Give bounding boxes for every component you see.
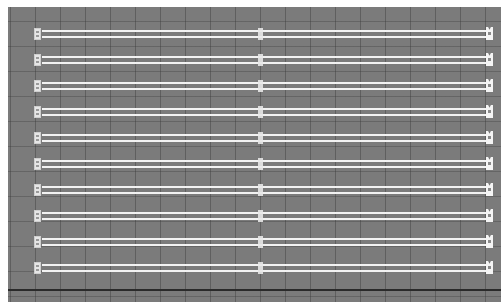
rail-top-line	[42, 134, 487, 136]
middle-connector-icon	[258, 54, 263, 66]
rail-bottom-line	[42, 166, 487, 168]
middle-connector-icon	[258, 132, 263, 144]
right-connector-icon	[486, 183, 493, 196]
left-connector-icon	[34, 236, 41, 248]
rail-top-line	[42, 160, 487, 162]
right-connector-icon	[486, 79, 493, 92]
rail-row	[8, 133, 501, 143]
right-connector-icon	[486, 105, 493, 118]
middle-connector-icon	[258, 236, 263, 248]
rail-row	[8, 185, 501, 195]
rail-top-line	[42, 212, 487, 214]
rail-row	[8, 237, 501, 247]
grid-canvas	[8, 7, 501, 302]
left-connector-icon	[34, 106, 41, 118]
rail-row	[8, 81, 501, 91]
left-connector-icon	[34, 80, 41, 92]
left-connector-icon	[34, 28, 41, 40]
rail-bottom-line	[42, 270, 487, 272]
rail-bottom-line	[42, 36, 487, 38]
right-connector-icon	[486, 53, 493, 66]
baseline-line	[8, 289, 501, 291]
rail-row	[8, 159, 501, 169]
rail-top-line	[42, 186, 487, 188]
left-connector-icon	[34, 132, 41, 144]
rail-row	[8, 29, 501, 39]
rail-top-line	[42, 82, 487, 84]
rail-bottom-line	[42, 218, 487, 220]
left-connector-icon	[34, 262, 41, 274]
middle-connector-icon	[258, 262, 263, 274]
left-connector-icon	[34, 184, 41, 196]
middle-connector-icon	[258, 80, 263, 92]
right-connector-icon	[486, 235, 493, 248]
rail-row	[8, 107, 501, 117]
rail-top-line	[42, 238, 487, 240]
right-connector-icon	[486, 261, 493, 274]
rail-row	[8, 263, 501, 273]
middle-connector-icon	[258, 210, 263, 222]
rail-bottom-line	[42, 140, 487, 142]
rail-bottom-line	[42, 62, 487, 64]
rail-bottom-line	[42, 114, 487, 116]
right-connector-icon	[486, 157, 493, 170]
right-connector-icon	[486, 27, 493, 40]
middle-connector-icon	[258, 28, 263, 40]
rail-row	[8, 55, 501, 65]
right-connector-icon	[486, 209, 493, 222]
middle-connector-icon	[258, 184, 263, 196]
rail-top-line	[42, 108, 487, 110]
right-connector-icon	[486, 131, 493, 144]
rail-top-line	[42, 30, 487, 32]
middle-connector-icon	[258, 106, 263, 118]
rail-top-line	[42, 56, 487, 58]
rail-bottom-line	[42, 192, 487, 194]
left-connector-icon	[34, 54, 41, 66]
rail-bottom-line	[42, 244, 487, 246]
left-connector-icon	[34, 158, 41, 170]
rail-top-line	[42, 264, 487, 266]
left-connector-icon	[34, 210, 41, 222]
rail-row	[8, 211, 501, 221]
rail-bottom-line	[42, 88, 487, 90]
middle-connector-icon	[258, 158, 263, 170]
